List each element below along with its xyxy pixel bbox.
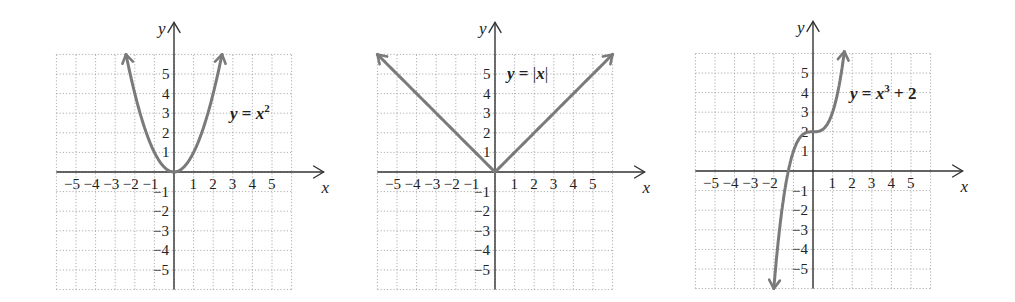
y-tick-label: 4 <box>483 86 491 102</box>
y-tick-label: −1 <box>792 183 808 199</box>
y-tick-label: 3 <box>801 104 809 120</box>
function-graphs-figure: xy−5−4−3−2−11234554321−1−2−3−4−5y = x2 x… <box>0 0 1015 302</box>
x-tick-label: −4 <box>723 175 739 191</box>
y-tick-label: 5 <box>483 66 491 82</box>
y-tick-label: −4 <box>153 242 169 258</box>
y-tick-label: −3 <box>792 222 808 238</box>
y-tick-label: 2 <box>162 125 170 141</box>
function-curve <box>769 52 848 289</box>
y-axis-label: y <box>477 19 487 38</box>
x-tick-label: −5 <box>703 175 719 191</box>
equation-label: y = x3 + 2 <box>848 82 916 103</box>
x-tick-label: 5 <box>589 176 597 192</box>
svg-text:y = x2: y = x2 <box>228 102 270 123</box>
x-tick-label: −4 <box>405 176 421 192</box>
x-tick-label: −5 <box>385 176 401 192</box>
graph-absolute-value: xy−5−4−3−2−11234554321−1−2−3−4−5y = |x| <box>377 19 650 289</box>
y-tick-label: −5 <box>153 262 169 278</box>
y-tick-label: −1 <box>153 184 169 200</box>
x-tick-label: 2 <box>848 175 856 191</box>
y-tick-label: 5 <box>162 66 170 82</box>
x-axis-label: x <box>960 177 969 196</box>
x-tick-label: −3 <box>424 176 440 192</box>
y-tick-label: 5 <box>801 65 809 81</box>
x-tick-label: 4 <box>569 176 577 192</box>
y-axis-label: y <box>156 19 166 38</box>
y-tick-label: −3 <box>153 223 169 239</box>
equation-label: y = |x| <box>505 64 548 83</box>
y-tick-label: −1 <box>474 184 490 200</box>
y-tick-label: −4 <box>474 242 490 258</box>
x-tick-label: −4 <box>84 176 100 192</box>
graph-x-cubed-plus-two: xy−5−4−3−21234554321−1−2−3−4−5y = x3 + 2 <box>695 18 968 288</box>
x-tick-label: −3 <box>103 176 119 192</box>
x-tick-label: −2 <box>123 176 139 192</box>
axes: xy <box>695 18 968 288</box>
x-tick-label: 2 <box>530 176 538 192</box>
x-tick-label: −3 <box>742 175 758 191</box>
y-tick-label: −4 <box>792 241 808 257</box>
y-tick-label: −2 <box>153 203 169 219</box>
y-tick-label: 4 <box>162 86 170 102</box>
y-tick-label: 1 <box>483 144 491 160</box>
x-tick-label: 3 <box>550 176 558 192</box>
x-tick-label: 5 <box>268 176 276 192</box>
equation-label: y = x2 <box>228 102 270 123</box>
y-tick-label: −5 <box>474 262 490 278</box>
svg-text:y = |x|: y = |x| <box>505 64 548 83</box>
x-tick-label: −2 <box>762 175 778 191</box>
x-axis-label: x <box>321 178 330 197</box>
x-tick-label: 5 <box>907 175 915 191</box>
x-tick-label: 3 <box>868 175 876 191</box>
x-tick-label: −5 <box>64 176 80 192</box>
graph-x-squared: xy−5−4−3−2−11234554321−1−2−3−4−5y = x2 <box>56 19 329 289</box>
x-tick-label: 1 <box>829 175 837 191</box>
y-tick-label: 3 <box>162 105 170 121</box>
y-tick-label: −2 <box>792 202 808 218</box>
x-tick-label: 2 <box>209 176 217 192</box>
y-tick-label: −3 <box>474 223 490 239</box>
y-tick-label: −5 <box>792 261 808 277</box>
y-axis-label: y <box>795 18 805 37</box>
y-tick-label: 3 <box>483 105 491 121</box>
x-tick-label: 4 <box>248 176 256 192</box>
x-tick-label: 1 <box>511 176 518 192</box>
x-tick-label: 3 <box>229 176 237 192</box>
y-tick-label: 1 <box>162 144 170 160</box>
y-tick-label: 4 <box>801 85 809 101</box>
y-tick-label: 1 <box>801 143 809 159</box>
y-tick-label: 2 <box>483 125 491 141</box>
x-tick-label: 4 <box>887 175 895 191</box>
x-tick-label: −2 <box>444 176 460 192</box>
y-tick-label: −2 <box>474 203 490 219</box>
x-axis-label: x <box>642 178 651 197</box>
svg-text:y = x3 + 2: y = x3 + 2 <box>848 82 916 103</box>
x-tick-label: 1 <box>190 176 198 192</box>
